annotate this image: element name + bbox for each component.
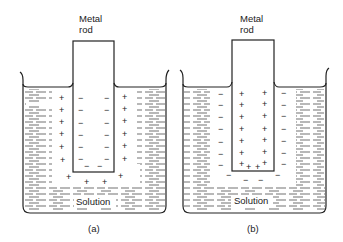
liquid-surface bbox=[23, 83, 73, 87]
svg-text:+: + bbox=[102, 177, 107, 187]
svg-text:−: − bbox=[218, 137, 223, 147]
svg-text:+: + bbox=[118, 171, 123, 181]
svg-text:+: + bbox=[239, 136, 244, 146]
rod-label-line2: rod bbox=[240, 24, 254, 35]
electrode-diagram: −− −− −− −− −− −− −− ++ ++ ++ ++ ++ ++ +… bbox=[0, 0, 343, 242]
svg-text:+: + bbox=[262, 147, 267, 157]
svg-text:+: + bbox=[122, 154, 127, 164]
svg-text:−: − bbox=[258, 175, 263, 185]
svg-text:−: − bbox=[218, 89, 223, 99]
svg-text:−: − bbox=[218, 100, 223, 110]
solution-label: Solution bbox=[234, 195, 268, 206]
liquid-surface bbox=[183, 82, 232, 87]
svg-text:−: − bbox=[104, 130, 109, 140]
svg-text:+: + bbox=[239, 148, 244, 158]
panel-caption: (a) bbox=[88, 223, 100, 234]
svg-text:−: − bbox=[104, 105, 109, 115]
panel-a: −− −− −− −− −− −− −− ++ ++ ++ ++ ++ ++ +… bbox=[20, 13, 169, 234]
svg-text:+: + bbox=[122, 92, 127, 102]
svg-text:−: − bbox=[281, 111, 286, 121]
svg-text:+: + bbox=[239, 124, 244, 134]
svg-text:+: + bbox=[262, 135, 267, 145]
svg-text:−: − bbox=[218, 124, 223, 134]
svg-text:−: − bbox=[281, 124, 286, 134]
svg-text:+: + bbox=[59, 105, 64, 115]
svg-text:+: + bbox=[122, 104, 127, 114]
svg-text:−: − bbox=[281, 136, 286, 146]
svg-text:−: − bbox=[104, 118, 109, 128]
panel-b: ++ ++ ++ ++ ++ ++ ++ ++ −− −− −− −− −− −… bbox=[180, 13, 329, 234]
svg-text:+: + bbox=[122, 116, 127, 126]
rod-charges: ++ ++ ++ ++ ++ ++ ++ ++ bbox=[239, 88, 267, 172]
solution-hatch-right bbox=[296, 89, 324, 187]
solution-label: Solution bbox=[76, 196, 110, 207]
svg-text:−: − bbox=[218, 160, 223, 170]
svg-text:−: − bbox=[218, 112, 223, 122]
svg-text:+: + bbox=[246, 162, 251, 172]
svg-text:+: + bbox=[262, 158, 267, 168]
svg-text:−: − bbox=[78, 130, 83, 140]
svg-text:−: − bbox=[104, 142, 109, 152]
solution-charges: ++ ++ ++ ++ ++ ++ ++ ++ bbox=[59, 92, 127, 187]
rod-charges: −− −− −− −− −− −− −− bbox=[78, 93, 109, 171]
svg-text:+: + bbox=[239, 159, 244, 169]
svg-text:+: + bbox=[122, 141, 127, 151]
svg-text:+: + bbox=[262, 124, 267, 134]
svg-text:+: + bbox=[262, 88, 267, 98]
svg-text:+: + bbox=[59, 129, 64, 139]
rod-label-line1: Metal bbox=[240, 13, 263, 24]
svg-text:+: + bbox=[59, 117, 64, 127]
svg-text:−: − bbox=[78, 93, 83, 103]
svg-text:−: − bbox=[226, 170, 231, 180]
svg-text:−: − bbox=[97, 161, 102, 171]
svg-text:+: + bbox=[239, 89, 244, 99]
svg-text:+: + bbox=[66, 172, 71, 182]
svg-text:+: + bbox=[239, 112, 244, 122]
svg-text:−: − bbox=[218, 149, 223, 159]
svg-text:+: + bbox=[255, 162, 260, 172]
svg-text:−: − bbox=[78, 118, 83, 128]
svg-text:−: − bbox=[281, 148, 286, 158]
svg-text:+: + bbox=[262, 99, 267, 109]
svg-text:−: − bbox=[281, 88, 286, 98]
rod-label-line1: Metal bbox=[79, 13, 102, 24]
svg-text:−: − bbox=[78, 105, 83, 115]
svg-text:−: − bbox=[243, 175, 248, 185]
svg-text:+: + bbox=[60, 155, 65, 165]
svg-text:−: − bbox=[281, 159, 286, 169]
panel-caption: (b) bbox=[247, 223, 259, 234]
solution-hatch-left bbox=[184, 89, 210, 187]
rod-label-line2: rod bbox=[79, 24, 93, 35]
svg-text:+: + bbox=[239, 100, 244, 110]
svg-text:−: − bbox=[78, 142, 83, 152]
svg-text:−: − bbox=[275, 170, 280, 180]
solution-hatch-right bbox=[137, 89, 165, 187]
svg-text:+: + bbox=[59, 142, 64, 152]
svg-text:+: + bbox=[262, 111, 267, 121]
svg-text:−: − bbox=[84, 161, 89, 171]
svg-text:−: − bbox=[104, 93, 109, 103]
svg-text:−: − bbox=[281, 100, 286, 110]
svg-text:−: − bbox=[78, 154, 83, 164]
svg-text:+: + bbox=[84, 177, 89, 187]
svg-text:+: + bbox=[122, 129, 127, 139]
svg-text:−: − bbox=[104, 154, 109, 164]
svg-text:+: + bbox=[59, 93, 64, 103]
